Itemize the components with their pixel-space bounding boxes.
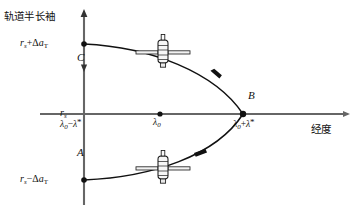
x-tick-label-right: λ0+λ* [233,118,255,131]
x-tick-center-text: λ0 [153,117,161,127]
x-tick-left-text: λ0−λ* [60,119,82,129]
arrow-x-axis-tip-icon [343,111,350,117]
marker-vertex-b [240,111,246,117]
x-axis-label: 经度 [311,124,331,135]
y-tick-label-upper: rs+ΔaT [20,38,48,50]
point-label-b: B [248,90,255,101]
x-tick-label-left: λ0−λ* [60,118,82,131]
x-tick-right-text: λ0+λ* [233,119,255,129]
point-label-c: C [77,52,84,63]
arrow-upper-branch-icon [210,68,223,79]
orbit-drift-diagram [0,0,353,214]
y-axis-label: 轨道半长袖 [4,11,55,22]
marker-center-origin [157,111,162,116]
satellite-upper-icon [136,35,190,68]
marker-lower-endpoint [81,177,87,183]
marker-upper-endpoint [81,41,87,47]
y-tick-upper-text: rs+ΔaT [20,37,48,48]
arrow-y-axis-tip-icon [81,9,88,17]
y-tick-center-text: rs [60,107,67,118]
x-tick-label-center: λ0 [153,118,161,129]
point-label-a: A [77,147,84,158]
satellite-lower-icon [136,151,190,184]
y-tick-lower-text: rs−ΔaT [20,173,48,184]
arrow-lower-branch-icon [194,148,208,157]
arrow-y-axis-mid-icon [81,65,87,73]
y-tick-label-lower: rs−ΔaT [20,174,48,186]
